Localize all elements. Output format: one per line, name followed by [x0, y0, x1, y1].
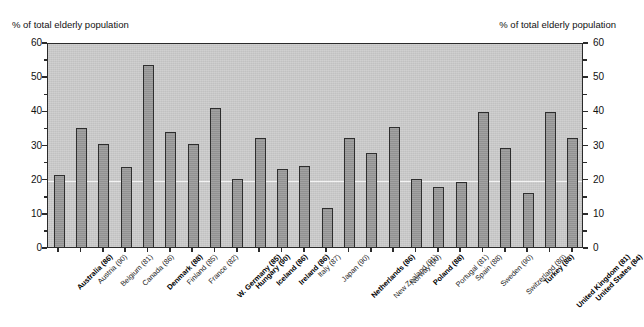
right-axis-caption: % of total elderly population — [499, 19, 616, 31]
x-tick — [549, 248, 550, 252]
y-tick-label-right: 20 — [593, 175, 604, 185]
y-tick-label-right: 60 — [593, 38, 604, 48]
bar-series — [48, 44, 582, 247]
bar — [567, 138, 578, 248]
x-tick — [214, 248, 215, 252]
y-axis-left: 0102030405060 — [3, 43, 47, 248]
x-tick — [57, 248, 58, 252]
bar — [121, 167, 132, 248]
bar — [210, 108, 221, 248]
y-tick-label-left: 20 — [31, 175, 42, 185]
y-tick-minor-right — [583, 59, 587, 61]
y-tick-label-left: 40 — [31, 106, 42, 116]
x-tick — [325, 248, 326, 252]
y-tick-minor-right — [583, 128, 587, 130]
y-tick-label-left: 30 — [31, 141, 42, 151]
y-tick-label-left: 50 — [31, 72, 42, 82]
y-tick-major-right — [583, 247, 588, 249]
left-axis-caption: % of total elderly population — [12, 19, 129, 31]
y-tick-major-right — [583, 145, 588, 147]
x-tick — [348, 248, 349, 252]
y-tick-major-right — [583, 179, 588, 181]
bar — [322, 208, 333, 248]
y-tick-major-right — [583, 213, 588, 215]
bar — [54, 175, 65, 248]
x-axis-label: Japan (90) — [341, 253, 372, 284]
x-tick — [415, 248, 416, 252]
bar — [478, 112, 489, 248]
x-tick — [124, 248, 125, 252]
bar — [277, 169, 288, 248]
bar — [411, 179, 422, 248]
y-tick-label-left: 60 — [31, 38, 42, 48]
x-tick — [571, 248, 572, 252]
y-tick-minor-right — [583, 230, 587, 232]
bar — [76, 128, 87, 248]
x-tick — [236, 248, 237, 252]
y-tick-label-right: 30 — [593, 141, 604, 151]
y-tick-major-right — [583, 42, 588, 44]
y-tick-label-right: 40 — [593, 106, 604, 116]
x-tick — [281, 248, 282, 252]
bar — [232, 179, 243, 248]
x-tick — [191, 248, 192, 252]
plot-area — [47, 43, 583, 248]
bar — [366, 153, 377, 248]
bar — [545, 112, 556, 248]
y-tick-label-right: 50 — [593, 72, 604, 82]
x-axis-label: United Kingdom (81) — [575, 253, 632, 310]
bar — [299, 166, 310, 248]
y-tick-minor-right — [583, 94, 587, 96]
y-axis-right: 0102030405060 — [583, 43, 627, 248]
x-axis-label: W. Germany (85) — [235, 253, 282, 300]
y-tick-minor-right — [583, 196, 587, 198]
bar — [344, 138, 355, 248]
bar — [433, 187, 444, 248]
x-tick — [258, 248, 259, 252]
x-tick — [102, 248, 103, 252]
x-tick — [370, 248, 371, 252]
y-tick-minor-right — [583, 162, 587, 164]
bar — [143, 65, 154, 248]
x-tick — [459, 248, 460, 252]
bar — [389, 127, 400, 248]
y-tick-label-left: 10 — [31, 209, 42, 219]
bar — [188, 144, 199, 248]
bar — [98, 144, 109, 248]
x-tick — [392, 248, 393, 252]
bar — [456, 182, 467, 248]
x-tick — [437, 248, 438, 252]
y-tick-major-right — [583, 76, 588, 78]
y-tick-major-right — [583, 111, 588, 113]
y-tick-label-right: 10 — [593, 209, 604, 219]
bar — [255, 138, 266, 248]
bar — [500, 148, 511, 248]
bar — [523, 193, 534, 248]
x-tick — [80, 248, 81, 252]
x-axis-labels: Australia (86)Austria (90)Belgium (81)Ca… — [47, 253, 583, 327]
bar — [165, 132, 176, 248]
x-tick — [504, 248, 505, 252]
y-tick-label-right: 0 — [593, 243, 599, 253]
